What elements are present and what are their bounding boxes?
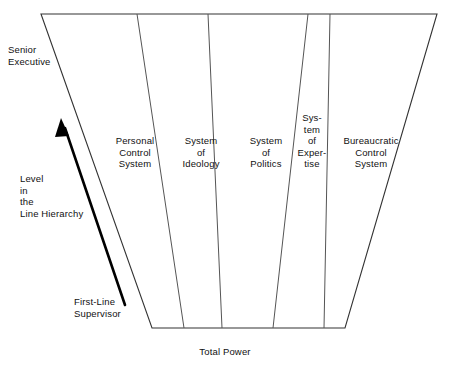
diagram-canvas: Personal Control System System of Ideolo… — [0, 0, 450, 365]
axis-label-level-in-line-hierarchy: Level in the Line Hierarchy — [20, 173, 116, 219]
divider-line-3 — [273, 14, 308, 328]
divider-line-4 — [324, 14, 330, 328]
band-label-system-of-expertise: Sys- tem of Exper- tise — [290, 112, 334, 170]
divider-line-1 — [137, 14, 184, 328]
axis-label-first-line-supervisor: First-Line Supervisor — [74, 296, 158, 319]
divider-line-2 — [208, 14, 222, 328]
trapezoid-outline — [41, 14, 437, 328]
band-label-system-of-ideology: System of Ideology — [170, 135, 232, 170]
axis-label-senior-executive: Senior Executive — [8, 44, 78, 67]
band-label-personal-control-system: Personal Control System — [104, 135, 166, 170]
total-power-text: Total Power — [195, 346, 254, 357]
band-label-bureaucratic-control-system: Bureaucratic Control System — [333, 135, 409, 170]
band-label-system-of-politics: System of Politics — [235, 135, 297, 170]
axis-label-total-power: Total Power — [0, 346, 450, 358]
